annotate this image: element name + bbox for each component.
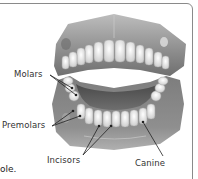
upper-jaw: [54, 14, 186, 76]
body-partial-text: ole.: [0, 164, 16, 174]
label-incisors: Incisors: [47, 155, 80, 165]
label-canine: Canine: [135, 158, 165, 168]
label-molars: Molars: [14, 69, 43, 79]
label-premolars: Premolars: [2, 120, 45, 130]
teeth-illustration: [0, 0, 198, 179]
